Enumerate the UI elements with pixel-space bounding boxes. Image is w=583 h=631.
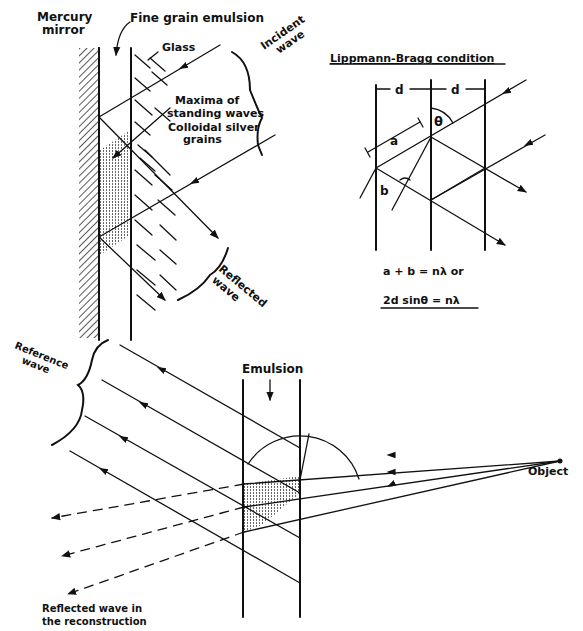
segment-b-label: b [380, 184, 389, 198]
glass-hatching [135, 55, 176, 310]
equation-a-plus-b: a + b = nλ or [383, 265, 464, 278]
mercury-mirror-hatching [79, 48, 99, 338]
spacing-d-label-1: d [395, 83, 404, 97]
object-label: Object [528, 465, 568, 478]
reconstructed-ray-3 [68, 532, 244, 594]
reference-ray-3 [85, 416, 300, 538]
emulsion-label: Emulsion [242, 362, 303, 376]
bragg-reflected-ray-1 [431, 137, 526, 192]
glass-label: Glass [162, 41, 196, 54]
reference-ray-1 [120, 345, 300, 448]
svg-text:grains: grains [183, 133, 222, 146]
reconstructed-ray-1 [52, 484, 244, 518]
reference-wave-brace [52, 340, 108, 445]
maxima-pointer-arrow [113, 108, 170, 158]
spacing-d-label-2: d [451, 83, 460, 97]
lippmann-holography-diagram: Mercury mirror Fine grain emulsion Glass… [0, 0, 583, 631]
svg-text:standing waves: standing waves [167, 107, 264, 120]
reflection-hologram-panel: Emulsion Reference wave [9, 340, 568, 627]
lippmann-bragg-panel: Lippmann-Bragg condition d d θ a b a + b… [330, 52, 545, 308]
fine-grain-emulsion-label: Fine grain emulsion [130, 11, 264, 25]
fringe-region [244, 476, 299, 532]
colloidal-silver-grains-region [100, 130, 130, 255]
equation-bragg: 2d sinθ = nλ [383, 294, 460, 307]
reconstructed-ray-2 [62, 507, 244, 556]
object-ray-1 [244, 461, 560, 484]
svg-text:the reconstruction: the reconstruction [42, 616, 147, 627]
mercury-mirror-label: Mercury [37, 10, 93, 24]
maxima-label: Maxima of [175, 94, 240, 107]
reflected-reconstruction-label: Reflected wave in [42, 603, 142, 614]
svg-text:mirror: mirror [42, 23, 85, 37]
emulsion-pointer-arrow [116, 22, 130, 55]
lippmann-bragg-title: Lippmann-Bragg condition [330, 52, 494, 65]
theta-label: θ [434, 114, 443, 129]
segment-a-label: a [390, 134, 398, 148]
standing-wave-panel: Mercury mirror Fine grain emulsion Glass… [37, 10, 314, 340]
